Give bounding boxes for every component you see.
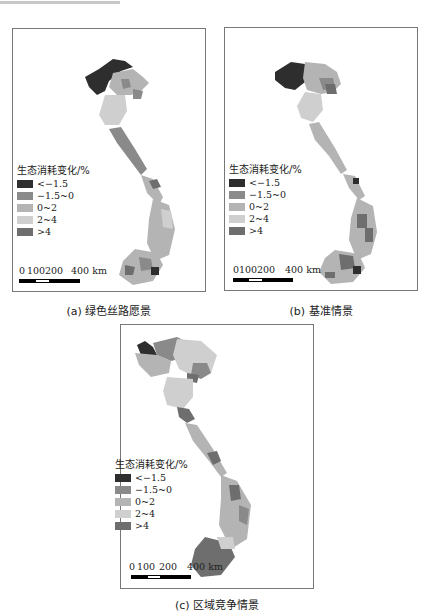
swatch-0-2 <box>17 204 33 212</box>
legend-a: 生态消耗变化/% <−1.5 −1.5~0 0~2 2~4 >4 <box>17 165 90 238</box>
legend-title: 生态消耗变化/% <box>229 164 302 176</box>
legend-item: >4 <box>115 520 188 532</box>
map-panel-b: 生态消耗变化/% <−1.5 −1.5~0 0~2 2~4 >4 0 100 2… <box>224 27 418 291</box>
cropped-text-fragment <box>0 0 140 5</box>
swatch-2-4 <box>229 215 245 223</box>
scale-bar-c: 0 100 200 400 km <box>129 561 229 580</box>
swatch-0-2 <box>229 203 245 211</box>
legend-item: −1.5~0 <box>17 190 90 202</box>
caption-c: (c) 区域竞争情景 <box>120 596 314 612</box>
swatch-gt4 <box>229 227 245 235</box>
vietnam-map-c <box>121 325 315 590</box>
scale-bar-a: 0 100 200 400 km <box>19 265 109 284</box>
legend-item: 2~4 <box>229 213 302 225</box>
legend-item: <−1.5 <box>115 472 188 484</box>
legend-item: >4 <box>229 225 302 237</box>
legend-item: 0~2 <box>115 496 188 508</box>
legend-title: 生态消耗变化/% <box>115 459 188 471</box>
legend-title: 生态消耗变化/% <box>17 165 90 177</box>
map-panel-c: 生态消耗变化/% <−1.5 −1.5~0 0~2 2~4 >4 0 100 2… <box>120 324 314 589</box>
vietnam-map-a <box>13 29 207 293</box>
swatch-gt4 <box>115 522 131 530</box>
legend-item: <−1.5 <box>17 178 90 190</box>
swatch-0-2 <box>115 498 131 506</box>
scale-bar-b: 0 100 200 400 km <box>233 264 323 283</box>
legend-item: 2~4 <box>115 508 188 520</box>
vietnam-map-b <box>225 28 419 292</box>
swatch-neg1-5-0 <box>17 192 33 200</box>
legend-c: 生态消耗变化/% <−1.5 −1.5~0 0~2 2~4 >4 <box>115 459 188 532</box>
legend-item: >4 <box>17 226 90 238</box>
legend-item: −1.5~0 <box>229 189 302 201</box>
legend-item: 2~4 <box>17 214 90 226</box>
legend-item: 0~2 <box>17 202 90 214</box>
swatch-2-4 <box>17 216 33 224</box>
swatch-lt-neg1-5 <box>229 179 245 187</box>
caption-b: (b) 基准情景 <box>224 302 418 318</box>
swatch-gt4 <box>17 228 33 236</box>
map-panel-a: 生态消耗变化/% <−1.5 −1.5~0 0~2 2~4 >4 0 100 2… <box>12 28 206 292</box>
legend-item: 0~2 <box>229 201 302 213</box>
swatch-lt-neg1-5 <box>17 180 33 188</box>
swatch-2-4 <box>115 510 131 518</box>
legend-b: 生态消耗变化/% <−1.5 −1.5~0 0~2 2~4 >4 <box>229 164 302 237</box>
legend-item: <−1.5 <box>229 177 302 189</box>
legend-item: −1.5~0 <box>115 484 188 496</box>
caption-a: (a) 绿色丝路愿景 <box>12 302 206 318</box>
swatch-neg1-5-0 <box>115 486 131 494</box>
swatch-neg1-5-0 <box>229 191 245 199</box>
swatch-lt-neg1-5 <box>115 474 131 482</box>
